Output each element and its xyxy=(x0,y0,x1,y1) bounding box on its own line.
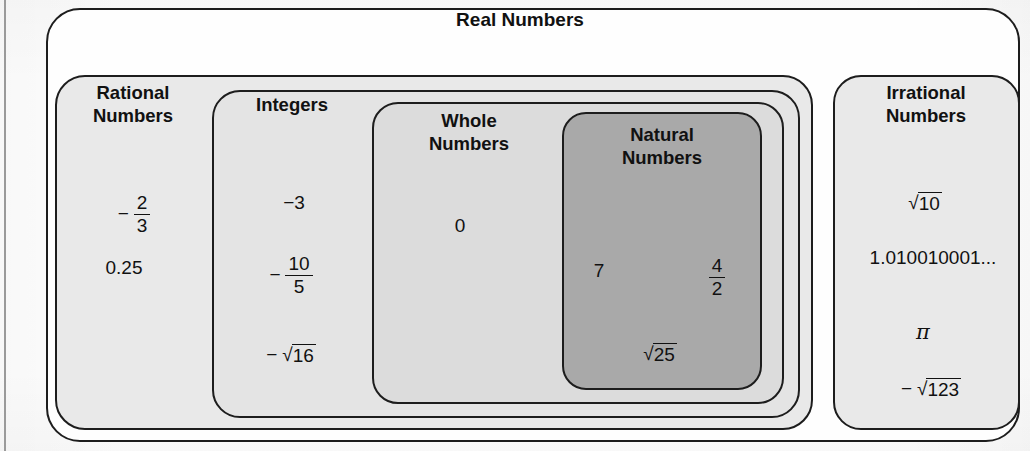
fraction: 10 5 xyxy=(285,254,312,297)
member-natural-sqrt-25: √ 25 xyxy=(620,339,700,369)
set-label-real-numbers: Real Numbers xyxy=(330,8,710,31)
number-sets-venn-diagram: Real Numbers Real Numbers Rational Numbe… xyxy=(0,0,1030,451)
member-irrational-nonrepeating-decimal: 1.010010001... xyxy=(844,245,1022,271)
member-irrational-negative-sqrt-123: − √ 123 xyxy=(868,374,994,404)
member-irrational-sqrt-10: √ 10 xyxy=(884,188,966,218)
minus-sign: − xyxy=(266,344,277,366)
radicand: 10 xyxy=(918,192,942,215)
fraction: 2 3 xyxy=(134,193,151,236)
square-root-icon: √ 123 xyxy=(917,378,961,401)
radicand: 25 xyxy=(653,343,677,366)
member-integers-negative-ten-fifths: − 10 5 xyxy=(232,248,350,302)
fraction-numerator: 2 xyxy=(134,193,151,215)
square-root-icon: √ 10 xyxy=(908,192,942,215)
minus-sign: − xyxy=(901,378,912,400)
member-rational-decimal: 0.25 xyxy=(68,255,180,281)
member-natural-seven: 7 xyxy=(575,258,623,284)
radicand: 16 xyxy=(292,344,316,367)
radicand: 123 xyxy=(926,378,961,401)
set-label-irrational-numbers: Irrational Numbers xyxy=(838,82,1014,127)
fraction-numerator: 4 xyxy=(709,256,726,278)
set-label-natural-numbers: Natural Numbers xyxy=(566,124,758,169)
member-rational-negative-two-thirds: − 2 3 xyxy=(78,188,190,240)
square-root-icon: √ 25 xyxy=(643,343,677,366)
fraction-denominator: 3 xyxy=(134,215,151,236)
fraction: 4 2 xyxy=(709,256,726,299)
minus-sign: − xyxy=(118,203,129,225)
square-root-icon: √ 16 xyxy=(282,344,316,367)
member-irrational-pi: π xyxy=(888,318,958,346)
set-label-whole-numbers: Whole Numbers xyxy=(380,110,558,155)
set-label-integers: Integers xyxy=(216,94,368,117)
member-whole-zero: 0 xyxy=(430,213,490,239)
member-natural-four-halves: 4 2 xyxy=(688,250,746,304)
member-integers-negative-sqrt-16: − √ 16 xyxy=(228,340,354,370)
fraction-denominator: 2 xyxy=(709,278,726,299)
set-label-rational-numbers: Rational Numbers xyxy=(58,82,208,127)
page-edge-rule xyxy=(4,0,6,451)
member-integers-negative-three: −3 xyxy=(238,190,350,216)
fraction-numerator: 10 xyxy=(285,254,312,276)
fraction-denominator: 5 xyxy=(291,276,308,297)
minus-sign: − xyxy=(269,264,280,286)
